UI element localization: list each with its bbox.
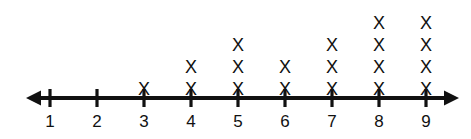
data-mark-8-4: X — [373, 14, 385, 32]
tick-label-1: 1 — [45, 112, 54, 131]
data-mark-6-1: X — [279, 80, 291, 98]
line-plot-figure: 123456789 XXXXXXXXXXXXXXXXXXX — [0, 0, 471, 139]
data-mark-4-2: X — [185, 58, 197, 76]
tick-label-7: 7 — [327, 112, 336, 131]
data-mark-4-1: X — [185, 80, 197, 98]
data-mark-9-2: X — [420, 58, 432, 76]
data-mark-5-1: X — [232, 80, 244, 98]
tick-label-3: 3 — [139, 112, 148, 131]
tick-label-4: 4 — [186, 112, 195, 131]
tick-label-2: 2 — [92, 112, 101, 131]
tick-label-5: 5 — [233, 112, 242, 131]
data-mark-7-3: X — [326, 36, 338, 54]
data-mark-8-1: X — [373, 80, 385, 98]
data-mark-5-3: X — [232, 36, 244, 54]
data-mark-9-3: X — [420, 36, 432, 54]
left-arrow-icon — [26, 91, 41, 106]
data-mark-8-2: X — [373, 58, 385, 76]
right-arrow-icon — [444, 91, 459, 106]
tick-label-8: 8 — [374, 112, 383, 131]
data-mark-7-1: X — [326, 80, 338, 98]
tick-label-9: 9 — [421, 112, 430, 131]
data-mark-5-2: X — [232, 58, 244, 76]
data-mark-7-2: X — [326, 58, 338, 76]
data-mark-6-2: X — [279, 58, 291, 76]
data-mark-9-4: X — [420, 14, 432, 32]
data-mark-3-1: X — [138, 80, 150, 98]
data-mark-9-1: X — [420, 80, 432, 98]
tick-label-6: 6 — [280, 112, 289, 131]
data-mark-8-3: X — [373, 36, 385, 54]
